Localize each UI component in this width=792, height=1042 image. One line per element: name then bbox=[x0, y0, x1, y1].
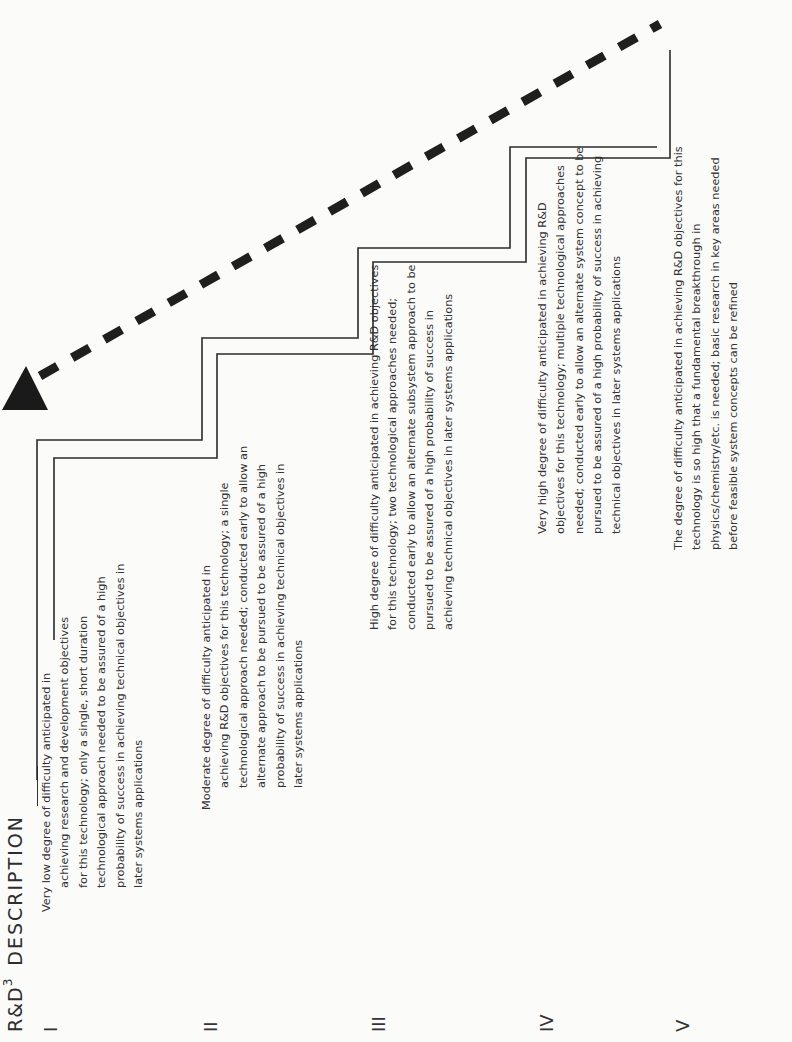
rotated-document-page: R&D3DESCRIPTION I Very low degree of dif… bbox=[0, 0, 792, 1042]
level-numeral-1: I bbox=[40, 1027, 61, 1032]
level-description-2: Moderate degree of difficulty anticipate… bbox=[198, 446, 308, 810]
level-description-3: High degree of difficulty anticipated in… bbox=[366, 264, 458, 630]
level-column-heading: R&D3 bbox=[4, 978, 26, 1032]
description-column-heading: DESCRIPTION bbox=[4, 815, 26, 966]
level-numeral-2: II bbox=[200, 1021, 221, 1032]
level-description-4: Very high degree of difficulty anticipat… bbox=[534, 147, 626, 534]
table-header: R&D3DESCRIPTION bbox=[4, 815, 26, 1032]
level-numeral-5: V bbox=[672, 1020, 693, 1032]
level-numeral-3: III bbox=[368, 1016, 389, 1032]
level-description-1: Very low degree of difficulty anticipate… bbox=[38, 564, 148, 912]
level-numeral-4: IV bbox=[536, 1014, 557, 1032]
level-description-5: The degree of difficulty anticipated in … bbox=[670, 146, 744, 550]
